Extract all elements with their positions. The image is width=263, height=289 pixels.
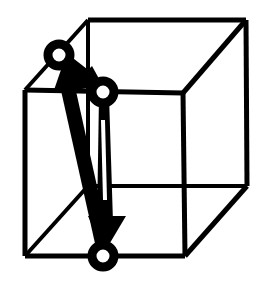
- edge-back-right: [246, 20, 247, 186]
- vertex-marker-c[interactable]: [92, 245, 114, 267]
- edge-front-right: [183, 93, 185, 256]
- vertex-marker-b[interactable]: [92, 81, 114, 103]
- cube-diagram-canvas: [0, 0, 263, 289]
- cube-figure: Necker cube with marked vertex path A li…: [0, 0, 263, 289]
- vertex-marker-a[interactable]: [48, 44, 70, 66]
